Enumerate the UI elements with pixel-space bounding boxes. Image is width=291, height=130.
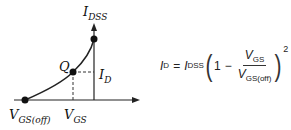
- shockley-equation: ID = IDSS ( 1 − VGS VGS(off) ) 2: [160, 48, 288, 84]
- id-label-sub: D: [104, 75, 111, 85]
- id-label: ID: [99, 68, 111, 85]
- eq-lhs-sub: D: [163, 61, 169, 70]
- eq-exponent: 2: [283, 44, 288, 54]
- vgs-label: VGS: [64, 108, 87, 125]
- id-axis-arrow-icon: [91, 23, 97, 31]
- vgsoff-label-sub: GS(off): [18, 115, 50, 125]
- idss-point: [91, 36, 98, 43]
- q-label-text: Q: [59, 59, 70, 74]
- q-point: [70, 69, 77, 76]
- vgs-axis-arrow-icon: [132, 97, 140, 103]
- vgsoff-point: [22, 97, 29, 104]
- eq-numerator: VGS: [243, 48, 267, 66]
- eq-den-sub: GS(off): [246, 75, 272, 84]
- idss-label: IDSS: [83, 5, 108, 22]
- eq-num-sub: GS: [253, 55, 265, 64]
- eq-left-paren: (: [205, 51, 212, 81]
- vgsoff-label: VGS(off): [9, 108, 51, 125]
- eq-denominator: VGS(off): [238, 66, 272, 83]
- vgs-label-main: V: [64, 107, 73, 122]
- eq-minus: −: [225, 59, 232, 73]
- vgsoff-label-main: V: [9, 107, 18, 122]
- eq-den-main: V: [238, 67, 246, 81]
- idss-label-sub: DSS: [88, 12, 107, 22]
- eq-equals: =: [173, 59, 180, 73]
- vgs-label-sub: GS: [73, 115, 86, 125]
- eq-num-main: V: [245, 48, 253, 62]
- eq-idss-sub: DSS: [187, 61, 203, 70]
- eq-one: 1: [214, 59, 221, 73]
- eq-right-paren: ): [275, 51, 282, 81]
- eq-fraction: VGS VGS(off): [238, 48, 272, 84]
- q-label: Q: [59, 60, 70, 73]
